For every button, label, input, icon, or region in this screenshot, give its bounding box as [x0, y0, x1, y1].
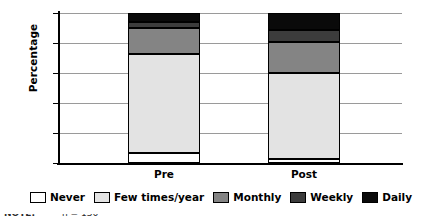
- footer-note-left: NOTE:: [4, 214, 35, 218]
- legend-swatch-never-icon: [30, 192, 46, 203]
- legend-swatch-monthly-icon: [213, 192, 229, 203]
- legend-swatch-weekly-icon: [290, 192, 306, 203]
- legend-swatch-few-times-year-icon: [94, 192, 110, 203]
- chart-legend: Never Few times/year Monthly Weekly Dail…: [0, 192, 442, 203]
- y-axis-title: Percentage: [27, 0, 39, 123]
- x-axis-line: [57, 163, 403, 165]
- legend-item-weekly[interactable]: Weekly: [290, 192, 353, 203]
- legend-item-daily[interactable]: Daily: [362, 192, 412, 203]
- bar-segment-pre-daily[interactable]: [128, 13, 200, 22]
- footer-note-right: n = 136: [62, 214, 98, 218]
- legend-label-daily: Daily: [382, 192, 412, 203]
- legend-item-few-times-year[interactable]: Few times/year: [94, 192, 204, 203]
- bar-segment-pre-few-times-year[interactable]: [128, 54, 200, 153]
- footer-note: NOTE: n = 136: [0, 214, 442, 224]
- plot-area: [58, 13, 402, 163]
- x-tick-label-pre: Pre: [104, 168, 224, 180]
- legend-label-weekly: Weekly: [310, 192, 353, 203]
- bar-segment-post-monthly[interactable]: [268, 42, 340, 74]
- legend-item-never[interactable]: Never: [30, 192, 85, 203]
- legend-item-monthly[interactable]: Monthly: [213, 192, 281, 203]
- x-tick-label-post: Post: [244, 168, 364, 180]
- y-axis-line: [58, 11, 60, 165]
- legend-label-few-times-year: Few times/year: [114, 192, 204, 203]
- bar-segment-pre-monthly[interactable]: [128, 28, 200, 54]
- bar-segment-pre-weekly[interactable]: [128, 22, 200, 28]
- bar-segment-pre-never[interactable]: [128, 153, 200, 164]
- stacked-bar-chart-figure: Percentage 100 80 60 40 20 0: [0, 0, 442, 224]
- bar-segment-post-few-times-year[interactable]: [268, 73, 340, 159]
- gridline-80: [58, 43, 402, 44]
- gridline-40: [58, 103, 402, 104]
- bar-segment-post-daily[interactable]: [268, 13, 340, 30]
- legend-label-monthly: Monthly: [233, 192, 281, 203]
- gridline-60: [58, 73, 402, 74]
- legend-swatch-daily-icon: [362, 192, 378, 203]
- gridline-20: [58, 133, 402, 134]
- gridline-100: [58, 13, 402, 14]
- bar-segment-post-weekly[interactable]: [268, 30, 340, 42]
- legend-label-never: Never: [50, 192, 85, 203]
